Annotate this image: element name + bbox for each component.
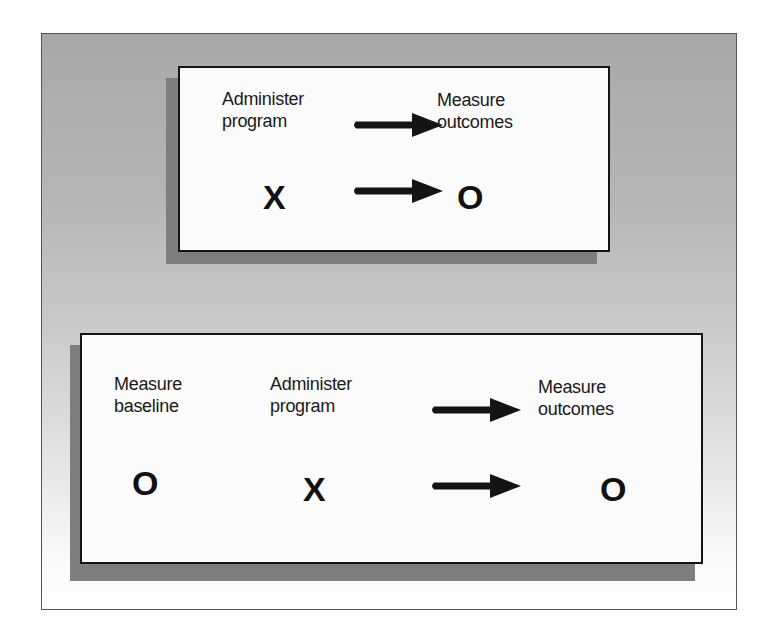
top-symbol-arrow-icon [352, 178, 444, 204]
bottom-outcome-symbol-o: O [600, 472, 626, 506]
bottom-baseline-symbol-o: O [132, 466, 158, 500]
top-label-arrow-icon [352, 112, 444, 138]
bottom-label-arrow-icon [430, 397, 522, 423]
bottom-administer-label: Administer program [270, 373, 352, 417]
bottom-design-box: Measure baseline Administer program Meas… [80, 333, 703, 564]
top-treatment-symbol-x: X [263, 180, 286, 214]
top-design-box: Administer program Measure outcomes X O [178, 66, 610, 252]
top-outcome-symbol-o: O [457, 180, 483, 214]
top-measure-outcomes-label: Measure outcomes [437, 89, 513, 133]
bottom-measure-outcomes-label: Measure outcomes [538, 376, 614, 420]
bottom-symbol-arrow-icon [430, 473, 522, 499]
bottom-treatment-symbol-x: X [303, 472, 326, 506]
top-administer-label: Administer program [222, 88, 304, 132]
bottom-measure-baseline-label: Measure baseline [114, 373, 182, 417]
